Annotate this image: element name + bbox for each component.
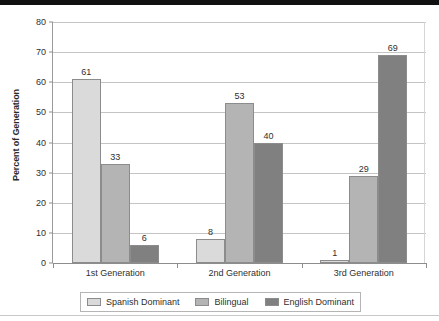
- bar-value-label: 53: [234, 91, 244, 101]
- bar-value-label: 33: [110, 152, 120, 162]
- bar-slot: 8: [196, 22, 225, 263]
- y-tick-label-80: 80: [36, 17, 46, 27]
- bar-slot: 1: [320, 22, 349, 263]
- bar-slot: 33: [101, 22, 130, 263]
- bar-slot: 53: [225, 22, 254, 263]
- bar-group: 85340: [177, 22, 301, 263]
- legend-label: Bilingual: [214, 297, 248, 307]
- plot-right-edge: [424, 22, 425, 263]
- bar[interactable]: [349, 176, 378, 263]
- legend-item[interactable]: Spanish Dominant: [87, 297, 180, 307]
- bar[interactable]: [130, 245, 159, 263]
- bar-slot: 61: [72, 22, 101, 263]
- y-tick-label-60: 60: [36, 77, 46, 87]
- legend-label: Spanish Dominant: [106, 297, 180, 307]
- bar[interactable]: [225, 103, 254, 263]
- bar-value-label: 6: [142, 233, 147, 243]
- bar[interactable]: [72, 79, 101, 263]
- bar-group: 12969: [302, 22, 426, 263]
- y-tick-label-0: 0: [41, 258, 46, 268]
- gridline-0: [53, 263, 426, 264]
- plot-area: 01020304050607080 613368534012969 1st Ge…: [52, 22, 425, 263]
- y-tick-label-10: 10: [36, 228, 46, 238]
- bar-value-label: 61: [81, 67, 91, 77]
- x-axis-separator: [53, 263, 54, 268]
- x-axis-separator: [426, 263, 427, 268]
- x-axis-separator: [177, 263, 178, 268]
- y-tick-label-20: 20: [36, 198, 46, 208]
- x-axis-label: 3rd Generation: [334, 268, 394, 278]
- bar-value-label: 29: [359, 164, 369, 174]
- bar[interactable]: [254, 143, 283, 264]
- bar-value-label: 69: [388, 43, 398, 53]
- y-tick-label-50: 50: [36, 107, 46, 117]
- bar-groups: 613368534012969: [53, 22, 426, 263]
- x-axis-label: 2nd Generation: [208, 268, 270, 278]
- bar-slot: 6: [130, 22, 159, 263]
- legend-swatch-icon: [265, 298, 279, 306]
- chart-legend: Spanish DominantBilingualEnglish Dominan…: [80, 292, 361, 312]
- bar-group: 61336: [53, 22, 177, 263]
- bar-group-bars: 61336: [53, 22, 177, 263]
- x-axis-label: 1st Generation: [86, 268, 145, 278]
- bar-value-label: 40: [263, 131, 273, 141]
- legend-swatch-icon: [87, 298, 101, 306]
- y-tick-label-30: 30: [36, 168, 46, 178]
- bar[interactable]: [378, 55, 407, 263]
- bottom-rule: [0, 315, 439, 316]
- bar-slot: 29: [349, 22, 378, 263]
- x-axis-separator: [302, 263, 303, 268]
- bar[interactable]: [196, 239, 225, 263]
- bar-value-label: 1: [332, 248, 337, 258]
- legend-item[interactable]: Bilingual: [195, 297, 248, 307]
- bar-group-bars: 85340: [177, 22, 301, 263]
- y-axis-title: Percent of Generation: [11, 65, 21, 205]
- bar-slot: 40: [254, 22, 283, 263]
- bar-slot: 69: [378, 22, 407, 263]
- legend-swatch-icon: [195, 298, 209, 306]
- bar-chart-figure: Percent of Generation 01020304050607080 …: [0, 5, 439, 315]
- bar[interactable]: [320, 260, 349, 263]
- bar[interactable]: [101, 164, 130, 263]
- bar-group-bars: 12969: [302, 22, 426, 263]
- bar-value-label: 8: [208, 227, 213, 237]
- legend-item[interactable]: English Dominant: [265, 297, 355, 307]
- y-tick-label-40: 40: [36, 138, 46, 148]
- legend-label: English Dominant: [284, 297, 355, 307]
- y-tick-label-70: 70: [36, 47, 46, 57]
